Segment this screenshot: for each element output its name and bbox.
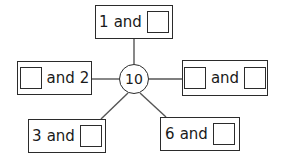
center-value: 10	[125, 72, 143, 86]
operator-right: and	[211, 71, 239, 86]
answer-blank-left[interactable]	[20, 67, 42, 89]
term-right-left: 2	[80, 71, 90, 86]
answer-blank-bottom-right[interactable]	[213, 123, 235, 145]
connector-center-to-bottom-right	[140, 93, 166, 117]
connector-center-to-bottom-left	[101, 93, 128, 119]
equation-box-bottom-left[interactable]: 3 and	[28, 119, 106, 153]
operator-top: and	[114, 15, 142, 30]
operator-bottom-right: and	[180, 127, 208, 142]
equation-box-top[interactable]: 1 and	[95, 5, 173, 39]
answer-blank-right-first[interactable]	[184, 67, 206, 89]
operator-left: and	[47, 71, 75, 86]
answer-blank-top[interactable]	[147, 11, 169, 33]
term-left-bottom-right: 6	[165, 127, 175, 142]
answer-blank-right-second[interactable]	[244, 67, 266, 89]
term-left-bottom-left: 3	[32, 129, 42, 144]
equation-box-bottom-right[interactable]: 6 and	[160, 117, 240, 151]
operator-bottom-left: and	[47, 129, 75, 144]
equation-box-left[interactable]: and 2	[17, 61, 92, 95]
term-left-top: 1	[99, 15, 109, 30]
answer-blank-bottom-left[interactable]	[80, 125, 102, 147]
number-bond-diagram: 1 and and 2 10 and 3 and 6 and	[0, 0, 283, 160]
center-circle-node: 10	[119, 64, 149, 94]
equation-box-right[interactable]: and	[182, 60, 268, 96]
